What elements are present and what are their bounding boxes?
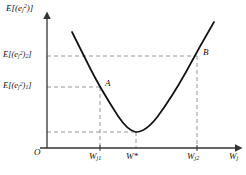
x-tick-label-Wj1: Wj1 <box>89 152 101 161</box>
point-label-a: A <box>105 79 111 88</box>
y-axis-title: E[(ej2)] <box>6 3 33 13</box>
origin-label: O <box>34 148 41 157</box>
x-tick-label-Wstar: W* <box>126 152 138 161</box>
x-tick-label-Wj2: Wj2 <box>187 152 199 161</box>
point-label-b: B <box>203 48 209 57</box>
y-tick-label-E2: E[(ej2)2] <box>3 50 32 60</box>
error-curve <box>72 22 214 132</box>
figure-canvas: E[(ej2)] E[(ej2)2] E[(ej2)1] Wj1 W* Wj2 … <box>0 0 246 175</box>
x-axis-title: Wj <box>229 152 238 161</box>
y-tick-label-E1: E[(ej2)1] <box>3 81 32 91</box>
